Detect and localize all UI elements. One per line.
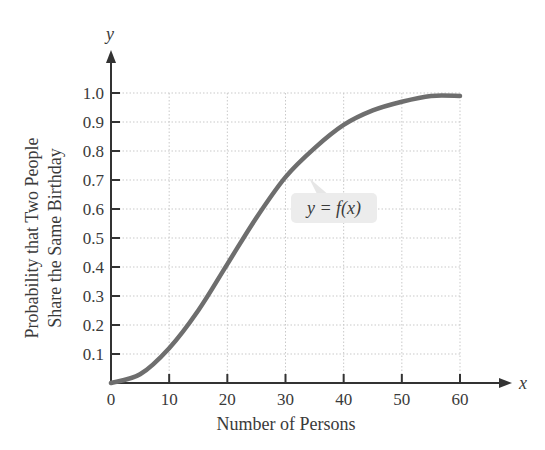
- y-tick-label: 1.0: [83, 84, 104, 103]
- tick-labels: 0.10.20.30.40.50.60.70.80.91.00102030405…: [83, 84, 469, 409]
- y-axis-var: y: [104, 24, 114, 44]
- y-tick-label: 0.7: [83, 171, 105, 190]
- x-tick-label: 40: [335, 390, 352, 409]
- x-tick-label: 0: [107, 390, 116, 409]
- x-tick-label: 20: [219, 390, 236, 409]
- x-axis-var: x: [518, 373, 527, 393]
- x-tick-label: 30: [277, 390, 294, 409]
- y-tick-label: 0.3: [83, 287, 104, 306]
- y-axis-title-line1: Probability that Two People: [22, 138, 42, 339]
- y-tick-label: 0.6: [83, 200, 104, 219]
- x-tick-label: 60: [452, 390, 469, 409]
- x-axis-arrow-icon: [499, 378, 512, 388]
- y-tick-label: 0.4: [83, 258, 105, 277]
- y-tick-label: 0.5: [83, 229, 104, 248]
- grid-lines: [119, 93, 460, 375]
- y-axis-arrow-icon: [106, 50, 116, 63]
- y-tick-label: 0.1: [83, 345, 104, 364]
- y-tick-label: 0.8: [83, 142, 104, 161]
- x-axis-title: Number of Persons: [217, 414, 356, 434]
- y-tick-label: 0.2: [83, 316, 104, 335]
- y-axis-title-line2: Share the Same Birthday: [45, 148, 65, 327]
- x-tick-label: 10: [161, 390, 178, 409]
- curve-label: y = f(x): [291, 178, 377, 223]
- birthday-probability-chart: 0.10.20.30.40.50.60.70.80.91.00102030405…: [0, 0, 545, 450]
- y-tick-label: 0.9: [83, 113, 104, 132]
- x-tick-label: 50: [393, 390, 410, 409]
- curve-label-text: y = f(x): [305, 198, 361, 219]
